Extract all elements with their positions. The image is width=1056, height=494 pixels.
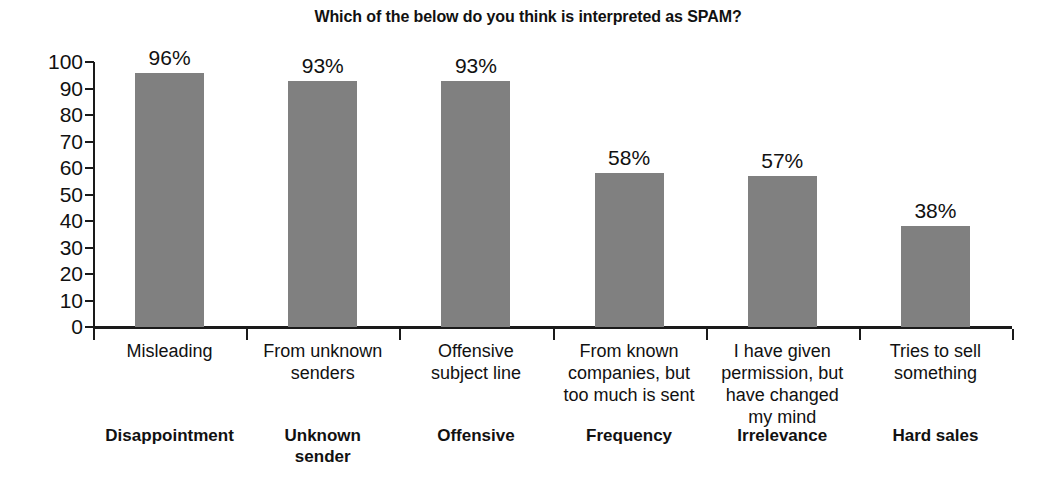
y-axis-tick-label: 100 xyxy=(37,51,83,72)
x-axis-tick-mark xyxy=(553,329,555,340)
y-axis-tick-label: 0 xyxy=(37,316,83,337)
bar-value-label: 96% xyxy=(110,47,230,68)
category-description-line: senders xyxy=(246,362,399,384)
bar-value-label: 93% xyxy=(263,55,383,76)
x-axis-tick-mark xyxy=(93,329,95,340)
bar[interactable] xyxy=(595,173,664,327)
bar[interactable] xyxy=(135,73,204,327)
category-description: I have givenpermission, buthave changedm… xyxy=(706,340,859,428)
bar-value-label: 93% xyxy=(416,55,536,76)
bar[interactable] xyxy=(441,81,510,327)
category-description-line: I have given xyxy=(706,340,859,362)
y-axis-tick-label: 80 xyxy=(37,104,83,125)
x-axis-tick-mark xyxy=(859,329,861,340)
category-description: Misleading xyxy=(93,340,246,362)
category-name: Hard sales xyxy=(859,425,1012,446)
y-axis-tick-label: 30 xyxy=(37,237,83,258)
category-name: Unknownsender xyxy=(246,425,399,467)
y-axis-tick-label: 70 xyxy=(37,131,83,152)
category-description-line: companies, but xyxy=(553,362,706,384)
category-description-line: too much is sent xyxy=(553,384,706,406)
y-axis-tick-labels: 1009080706050403020100 xyxy=(31,62,83,328)
y-axis-tick-label: 40 xyxy=(37,210,83,231)
y-axis-tick-label: 10 xyxy=(37,290,83,311)
category-description: Offensivesubject line xyxy=(399,340,552,384)
bar[interactable] xyxy=(288,81,357,327)
category-name: Offensive xyxy=(399,425,552,446)
bar-value-label: 58% xyxy=(569,147,689,168)
category-description-line: Offensive xyxy=(399,340,552,362)
bar-value-label: 57% xyxy=(722,150,842,171)
x-axis-tick-mark xyxy=(706,329,708,340)
category-description-line: have changed xyxy=(706,384,859,406)
category-description-line: Misleading xyxy=(93,340,246,362)
category-description-line: From known xyxy=(553,340,706,362)
bar[interactable] xyxy=(748,176,817,327)
chart-title: Which of the below do you think is inter… xyxy=(0,8,1056,26)
category-description: Tries to sellsomething xyxy=(859,340,1012,384)
category-description-line: subject line xyxy=(399,362,552,384)
x-axis-tick-mark xyxy=(1012,329,1014,340)
category-description-line: something xyxy=(859,362,1012,384)
x-axis-tick-mark xyxy=(399,329,401,340)
category-name-line: Frequency xyxy=(553,425,706,446)
bar[interactable] xyxy=(901,226,970,327)
y-axis-tick-label: 90 xyxy=(37,78,83,99)
category-name-line: Offensive xyxy=(399,425,552,446)
chart-page: Which of the below do you think is inter… xyxy=(0,0,1056,494)
category-name-line: Irrelevance xyxy=(706,425,859,446)
bar-value-label: 38% xyxy=(875,200,995,221)
category-description-line: permission, but xyxy=(706,362,859,384)
category-description-line: Tries to sell xyxy=(859,340,1012,362)
y-axis-tick-label: 60 xyxy=(37,157,83,178)
x-axis-tick-mark xyxy=(246,329,248,340)
category-name-line: Unknown xyxy=(246,425,399,446)
y-axis-tick-label: 20 xyxy=(37,263,83,284)
category-description: From unknownsenders xyxy=(246,340,399,384)
category-description: From knowncompanies, buttoo much is sent xyxy=(553,340,706,406)
category-name-line: Disappointment xyxy=(93,425,246,446)
category-description-line: From unknown xyxy=(246,340,399,362)
category-name-line: sender xyxy=(246,446,399,467)
category-name-line: Hard sales xyxy=(859,425,1012,446)
category-name: Irrelevance xyxy=(706,425,859,446)
y-axis-tick-label: 50 xyxy=(37,184,83,205)
category-name: Disappointment xyxy=(93,425,246,446)
plot-area xyxy=(93,62,1012,327)
category-name: Frequency xyxy=(553,425,706,446)
